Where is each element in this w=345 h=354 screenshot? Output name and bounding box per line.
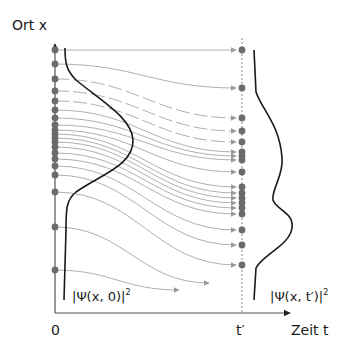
x-axis-label: Zeit t (291, 322, 329, 338)
particle-dot (239, 128, 246, 135)
particle-dot (52, 76, 59, 83)
final-density-label-base: |Ψ(x, t′)| (270, 289, 323, 304)
particle-dot (239, 211, 246, 218)
particle-dot (52, 88, 59, 95)
origin-label: 0 (51, 322, 60, 338)
initial-density-curve (64, 48, 133, 300)
trajectory-lines (55, 50, 236, 290)
trajectory-line (55, 175, 236, 245)
trajectory-line (55, 91, 236, 131)
particle-dot (239, 157, 246, 164)
y-axis-label: Ort x (12, 17, 47, 33)
particle-dot (239, 115, 246, 122)
initial-density-label-base: |Ψ(x, 0)| (72, 289, 125, 304)
trajectory-line (55, 134, 236, 187)
particle-dot (52, 224, 59, 231)
particle-dot (52, 61, 59, 68)
particle-dot (52, 163, 59, 170)
particle-dot (239, 242, 246, 249)
particle-dot (239, 262, 246, 269)
final-density-label-exp: 2 (323, 288, 328, 297)
trajectory-line (55, 192, 236, 265)
particle-dot (239, 184, 246, 191)
t-prime-label: t′ (236, 322, 245, 338)
particle-dot (239, 227, 246, 234)
particle-dot (52, 156, 59, 163)
particle-dot (239, 139, 246, 146)
initial-density-label: |Ψ(x, 0)|2 (72, 288, 130, 304)
trajectory-line (55, 110, 236, 152)
initial-density-label-exp: 2 (125, 288, 130, 297)
particle-dot (52, 98, 59, 105)
particle-dot (239, 85, 246, 92)
particle-dot (52, 172, 59, 179)
particle-dot (52, 150, 59, 157)
particle-dot (52, 47, 59, 54)
particle-dot (239, 169, 246, 176)
particle-dot (52, 189, 59, 196)
particle-dot (52, 107, 59, 114)
particle-dot (239, 205, 246, 212)
trajectory-line (55, 166, 236, 230)
particle-dot (52, 267, 59, 274)
final-density-label: |Ψ(x, t′)|2 (270, 288, 328, 304)
particle-dot (52, 115, 59, 122)
final-density-curve (254, 50, 292, 300)
trajectory-line (55, 270, 179, 290)
particle-dot (52, 144, 59, 151)
trajectory-line (55, 227, 209, 283)
particle-dot (239, 47, 246, 54)
